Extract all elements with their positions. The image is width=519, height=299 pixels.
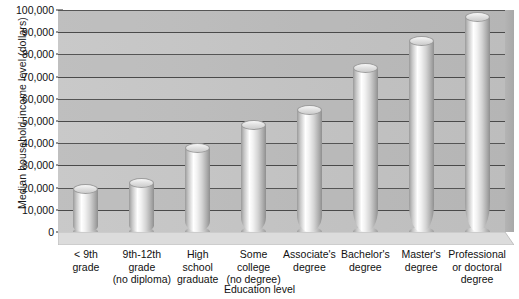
y-axis-tick-label: 80,000 [8, 48, 54, 60]
bar-top-ellipse [185, 143, 210, 153]
y-axis-tick-label: 40,000 [8, 137, 54, 149]
gridline [58, 32, 505, 33]
bar-body [185, 148, 210, 232]
gridline [58, 77, 505, 78]
floor-polygon-icon [58, 232, 514, 245]
floor-panel [58, 232, 514, 245]
y-axis-tick-label: 70,000 [8, 71, 54, 83]
x-axis-tick-label: Professionalor doctoraldegree [435, 248, 519, 286]
gridline [58, 210, 505, 211]
wall-band [58, 188, 505, 210]
bar-body [73, 189, 98, 232]
y-axis-tick-labels: 100,00090,00080,00070,00060,00050,00040,… [8, 0, 54, 245]
wall-band [58, 10, 505, 32]
chart-container: Median household income level (dollars) … [0, 0, 519, 299]
bar-cylinder [185, 143, 210, 232]
bar-cylinder [409, 36, 434, 232]
x-axis-tick-label-line: Professional [435, 248, 519, 261]
right-wall-panel [505, 10, 514, 232]
y-axis-tick-label: 20,000 [8, 182, 54, 194]
bar-top-ellipse [409, 36, 434, 46]
bar-cylinder [129, 178, 154, 232]
bar-cylinder [465, 12, 490, 232]
wall-band [58, 99, 505, 121]
bar-top-ellipse [353, 63, 378, 73]
x-axis-tick-label-line: or doctoral [435, 261, 519, 274]
wall-band [58, 54, 505, 76]
bar-body [241, 125, 266, 232]
bar-body [409, 41, 434, 232]
bar-top-ellipse [297, 105, 322, 115]
bar-cylinder [297, 105, 322, 232]
gridline [58, 121, 505, 122]
gridline [58, 165, 505, 166]
y-axis-tick-label: 30,000 [8, 159, 54, 171]
y-axis-tick-label: 0 [8, 226, 54, 238]
bar-body [129, 183, 154, 232]
bar-cylinder [73, 184, 98, 232]
wall-band [58, 143, 505, 165]
bar-top-ellipse [73, 184, 98, 194]
x-axis-title: Education level [0, 283, 519, 295]
y-axis-tick-label: 90,000 [8, 26, 54, 38]
bar-cylinder [241, 120, 266, 232]
y-axis-tick-label: 60,000 [8, 93, 54, 105]
y-axis-tick-label: 50,000 [8, 115, 54, 127]
bar-body [297, 110, 322, 232]
bar-body [353, 68, 378, 232]
bar-cylinder [353, 63, 378, 232]
bar-body [465, 17, 490, 232]
plot-area [58, 10, 505, 232]
y-axis-tick-label: 10,000 [8, 204, 54, 216]
y-axis-tick-label: 100,000 [8, 4, 54, 16]
bar-top-ellipse [465, 12, 490, 22]
